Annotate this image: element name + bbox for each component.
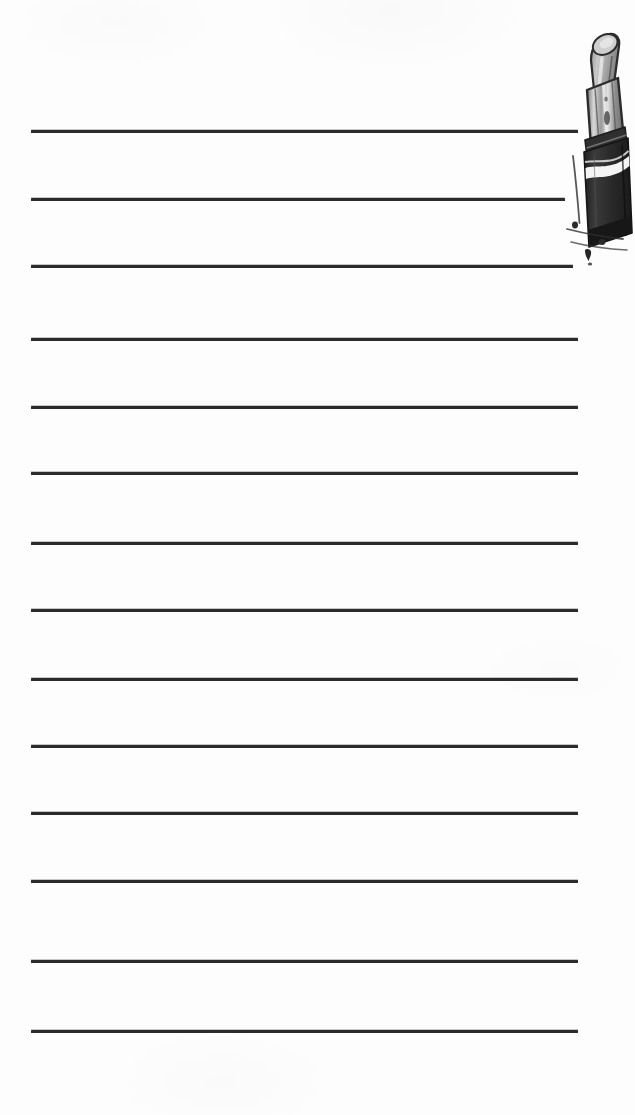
rule-line: [31, 960, 578, 963]
rule-line: [31, 678, 578, 681]
lipstick-illustration: [545, 18, 635, 268]
rule-line: [31, 265, 573, 268]
rule-line: [31, 472, 578, 475]
rule-line: [31, 745, 578, 748]
rule-line: [31, 338, 578, 341]
rule-line: [31, 1030, 578, 1033]
lipstick-case-barrel: [584, 138, 632, 247]
rule-lines-group: [0, 0, 635, 1115]
note-page: [0, 0, 635, 1115]
rule-line: [31, 880, 578, 883]
lipstick-drip: [585, 249, 591, 261]
rule-line: [31, 406, 578, 409]
rule-line: [31, 130, 578, 133]
rule-line: [31, 812, 578, 815]
rule-line: [31, 542, 578, 545]
rule-line: [31, 609, 578, 612]
rule-line: [31, 198, 565, 201]
